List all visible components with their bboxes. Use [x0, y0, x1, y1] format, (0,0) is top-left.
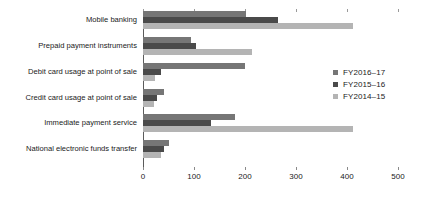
x-axis-top-tick: [398, 9, 399, 12]
bar: [143, 75, 155, 81]
legend-swatch-icon: [333, 70, 338, 75]
bar-group: [143, 11, 398, 29]
x-axis-tick: [194, 167, 195, 170]
legend-label: FY2014–15: [343, 92, 385, 101]
legend: FY2016–17FY2015–16FY2014–15: [333, 67, 385, 103]
bar-group: [143, 140, 398, 158]
category-axis-labels: Mobile bankingPrepaid payment instrument…: [0, 11, 139, 166]
legend-item[interactable]: FY2015–16: [333, 79, 385, 90]
bar: [143, 152, 161, 158]
legend-item[interactable]: FY2014–15: [333, 91, 385, 102]
bar: [143, 23, 353, 29]
x-axis-tick-label: 200: [238, 172, 251, 181]
category-label: Mobile banking: [0, 15, 137, 24]
x-axis-tick: [143, 167, 144, 170]
bar: [143, 126, 353, 132]
x-axis-tick: [398, 167, 399, 170]
x-axis-tick: [245, 167, 246, 170]
x-axis: 0100200300400500: [143, 167, 399, 187]
category-label: Prepaid payment instruments: [0, 41, 137, 50]
legend-label: FY2016–17: [343, 68, 385, 77]
category-label: Credit card usage at point of sale: [0, 93, 137, 102]
x-axis-tick-label: 400: [340, 172, 353, 181]
category-label: Immediate payment service: [0, 118, 137, 127]
x-axis-tick: [347, 167, 348, 170]
bar-group: [143, 37, 398, 55]
x-axis-tick: [296, 167, 297, 170]
legend-swatch-icon: [333, 94, 338, 99]
legend-swatch-icon: [333, 82, 338, 87]
bar-group: [143, 114, 398, 132]
x-axis-tick-label: 100: [187, 172, 200, 181]
category-label: National electronic funds transfer: [0, 144, 137, 153]
bar: [143, 49, 252, 55]
x-axis-tick-label: 500: [391, 172, 404, 181]
bar: [143, 101, 154, 107]
category-label: Debit card usage at point of sale: [0, 67, 137, 76]
x-axis-tick-label: 0: [141, 172, 145, 181]
legend-item[interactable]: FY2016–17: [333, 67, 385, 78]
bar-chart: Mobile bankingPrepaid payment instrument…: [0, 0, 422, 198]
legend-label: FY2015–16: [343, 80, 385, 89]
x-axis-tick-label: 300: [289, 172, 302, 181]
